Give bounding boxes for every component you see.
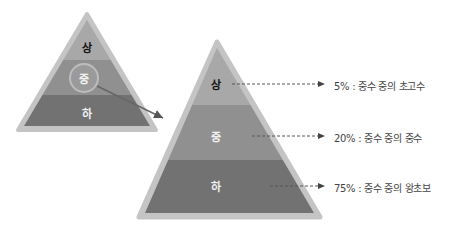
large-tier-bottom: 하 (211, 178, 221, 194)
annotation-top: 5% : 중수 중의 초고수 (334, 78, 425, 93)
small-tier-bottom: 하 (82, 105, 92, 121)
annotation-bottom: 75% : 중수 중의 왕초보 (334, 180, 431, 195)
large-tier-top: 상 (211, 76, 221, 92)
large-tier-middle: 중 (211, 128, 221, 144)
small-tier-top: 상 (82, 39, 92, 55)
annotation-middle: 20% : 중수 중의 중수 (334, 130, 422, 145)
pyramid-diagram (0, 0, 449, 236)
small-tier-middle: 중 (79, 70, 89, 86)
small-pyramid (0, 0, 200, 135)
